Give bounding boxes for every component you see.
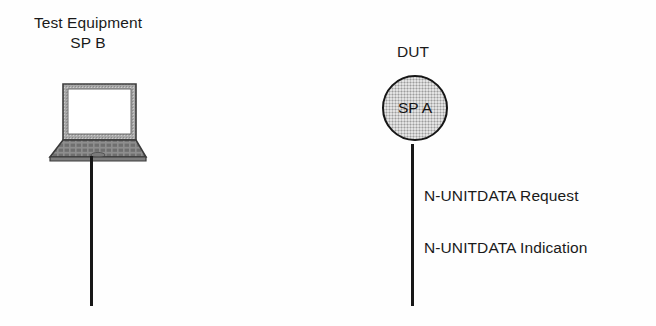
dut-label: DUT bbox=[397, 42, 429, 62]
sp-a-node: SP A bbox=[382, 75, 448, 141]
dut-lifeline bbox=[411, 144, 414, 306]
diagram-canvas: Test Equipment SP B bbox=[0, 0, 656, 326]
test-equipment-label-line2: SP B bbox=[70, 33, 105, 53]
message-label-request: N-UNITDATA Request bbox=[424, 186, 579, 206]
sp-a-node-label: SP A bbox=[398, 99, 432, 117]
message-label-indication: N-UNITDATA Indication bbox=[424, 238, 587, 258]
laptop-icon bbox=[40, 78, 148, 162]
test-equipment-lifeline bbox=[90, 156, 93, 306]
test-equipment-label-line1: Test Equipment bbox=[34, 13, 142, 33]
